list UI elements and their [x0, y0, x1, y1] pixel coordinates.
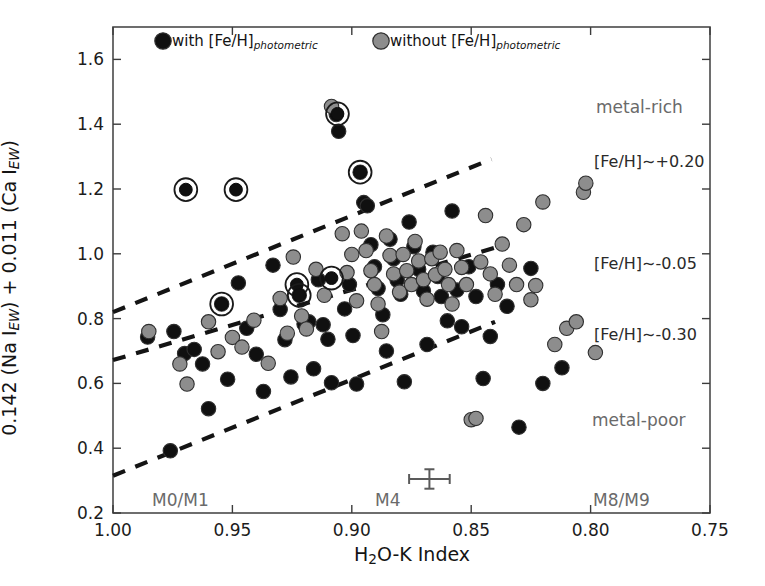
x-axis-title-pre: H — [354, 543, 368, 565]
data-point — [397, 375, 411, 389]
spectral-m0m1-label: M0/M1 — [152, 490, 209, 510]
data-point — [324, 376, 338, 390]
data-point — [474, 255, 488, 269]
x-axis-title: H2O-K Index — [354, 543, 470, 567]
data-point — [411, 254, 425, 268]
data-point — [321, 332, 335, 346]
metal-rich-label: metal-rich — [596, 97, 683, 117]
data-point — [588, 345, 602, 359]
data-point — [364, 263, 378, 277]
data-point — [438, 262, 452, 276]
data-point — [488, 287, 502, 301]
x-tick-label: 0.85 — [452, 520, 490, 540]
data-point — [524, 293, 538, 307]
data-point — [483, 267, 497, 281]
y-tick-label: 1.0 — [40, 244, 104, 264]
y-axis-title: 0.142 (Na IEW) + 0.011 (Ca IEW) — [0, 140, 22, 436]
data-point — [142, 324, 156, 338]
y-axis-title-sub1: EW — [7, 309, 22, 331]
x-tick-label: 0.80 — [572, 520, 610, 540]
data-point — [379, 229, 393, 243]
spectral-m4-label: M4 — [375, 490, 400, 510]
data-point — [512, 420, 526, 434]
x-tick-label: 0.90 — [333, 520, 371, 540]
y-axis-title-c: ) + 0.011 (Ca I — [0, 169, 20, 309]
data-point — [441, 277, 455, 291]
data-point — [299, 322, 313, 336]
data-point-highlighted — [325, 272, 338, 285]
x-tick-label: 0.75 — [691, 520, 729, 540]
feh-high-label: [Fe/H]∼+0.20 — [594, 152, 705, 171]
data-point — [517, 217, 531, 231]
data-point — [249, 347, 263, 361]
data-point — [306, 362, 320, 376]
data-points — [140, 99, 602, 458]
feh-low-label: [Fe/H]∼-0.30 — [594, 325, 697, 344]
data-point — [408, 234, 422, 248]
y-tick-label: 1.2 — [40, 179, 104, 199]
data-point-highlighted — [331, 107, 344, 120]
data-point — [163, 444, 177, 458]
data-point — [231, 276, 245, 290]
data-point — [359, 243, 373, 257]
data-point — [187, 342, 201, 356]
data-point — [367, 277, 381, 291]
data-point — [396, 247, 410, 261]
data-point — [379, 344, 393, 358]
data-point — [173, 357, 187, 371]
legend-label-with-feh: with [Fe/H]photometric — [172, 32, 318, 51]
data-point — [440, 314, 454, 328]
data-point — [261, 356, 275, 370]
figure-container: 1.000.950.900.850.800.750.20.40.60.81.01… — [0, 0, 765, 586]
data-point — [349, 294, 363, 308]
data-point — [420, 337, 434, 351]
y-tick-label: 1.6 — [40, 49, 104, 69]
x-axis-title-post: O-K Index — [377, 543, 470, 565]
data-point — [335, 227, 349, 241]
data-point-highlighted — [215, 298, 228, 311]
data-point — [469, 289, 483, 303]
data-point — [180, 377, 194, 391]
spectral-m8m9-label: M8/M9 — [593, 490, 650, 510]
legend-label-subscript: photometric — [496, 39, 560, 51]
data-point — [469, 411, 483, 425]
y-axis-title-sub2: EW — [7, 148, 22, 170]
data-point — [502, 258, 516, 272]
x-axis-title-sub: 2 — [368, 551, 377, 567]
data-point — [450, 243, 464, 257]
legend-label-text: with [Fe/H] — [172, 32, 254, 50]
y-tick-label: 0.6 — [40, 373, 104, 393]
y-axis-title-e: ) — [0, 140, 20, 147]
data-point — [195, 357, 209, 371]
data-point — [433, 245, 447, 259]
data-point — [294, 309, 308, 323]
data-point — [331, 124, 345, 138]
data-point — [500, 299, 514, 313]
data-point — [524, 261, 538, 275]
data-point — [454, 320, 468, 334]
data-point — [345, 247, 359, 261]
data-point-highlighted — [230, 183, 243, 196]
data-point — [354, 224, 368, 238]
data-point — [211, 344, 225, 358]
y-tick-label: 1.4 — [40, 114, 104, 134]
data-point — [445, 204, 459, 218]
data-point — [579, 176, 593, 190]
data-point — [483, 329, 497, 343]
data-point — [478, 208, 492, 222]
data-point-highlighted — [179, 183, 192, 196]
legend-marker-with-feh — [155, 33, 171, 49]
y-tick-label: 0.8 — [40, 309, 104, 329]
x-tick-label: 0.95 — [213, 520, 251, 540]
data-point — [402, 215, 416, 229]
data-point — [167, 324, 181, 338]
data-point — [383, 248, 397, 262]
data-point — [284, 370, 298, 384]
typical-error-cross — [409, 469, 450, 488]
data-point — [400, 263, 414, 277]
data-point — [316, 318, 330, 332]
data-point — [495, 237, 509, 251]
data-point — [569, 315, 583, 329]
data-point — [273, 291, 287, 305]
data-point — [374, 324, 388, 338]
